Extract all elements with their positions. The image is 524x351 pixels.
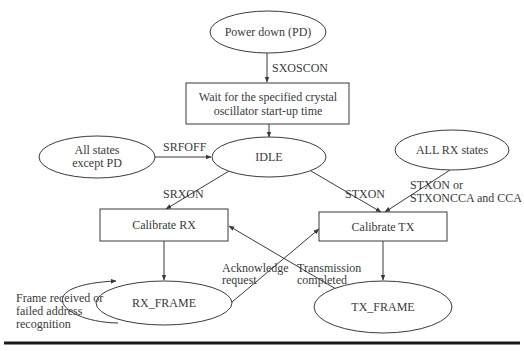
node-label-wait-line1: Wait for the specified crystal [199,90,338,104]
edge-label-txc-line2: completed [297,273,347,287]
node-label-calibrate-tx: Calibrate TX [352,220,415,234]
node-label-all-rx: ALL RX states [416,143,489,157]
edge-label-srfoff: SRFOFF [163,140,207,154]
node-label-rx-frame: RX_FRAME [132,296,196,310]
edge-stxon-cca: STXON or STXONCCA and CCA [385,170,522,212]
node-label-calibrate-rx: Calibrate RX [132,218,196,232]
edge-srxon: SRXON [163,171,229,209]
node-label-all-states-line1: All states [75,143,120,157]
node-label-power-down: Power down (PD) [225,25,312,39]
edge-label-sxoscon: SXOSCON [272,61,328,75]
edge-label-loop-line1: Frame received or [16,291,103,305]
node-all-states-except-pd: All states except PD [39,136,155,178]
edge-stxon: STXON [311,171,385,212]
node-label-all-states-line2: except PD [72,156,122,170]
edge-sxoscon: SXOSCON [267,53,328,82]
edge-label-stxon-cca-line1: STXON or [410,178,463,192]
edge-label-srxon: SRXON [163,187,204,201]
node-label-tx-frame: TX_FRAME [351,300,414,314]
node-power-down: Power down (PD) [210,11,326,53]
node-calibrate-rx: Calibrate RX [100,209,228,241]
node-tx-frame: TX_FRAME [314,281,452,333]
node-rx-frame: RX_FRAME [96,281,232,325]
edge-label-stxon: STXON [345,187,385,201]
node-label-wait-line2: oscillator start-up time [214,104,323,118]
edge-label-stxon-cca-line2: STXONCCA and CCA [410,191,522,205]
node-label-idle: IDLE [255,150,282,164]
edge-rx-self-loop: Frame received or failed address recogni… [16,281,118,331]
edge-label-loop-line3: recognition [16,317,71,331]
node-all-rx-states: ALL RX states [395,130,509,170]
edge-srfoff: SRFOFF [155,140,211,157]
edge-label-ack-line2: request [222,273,257,287]
node-calibrate-tx: Calibrate TX [319,212,447,241]
state-diagram: SXOSCON SRFOFF SRXON STXON STXON or STXO… [0,0,524,351]
node-idle: IDLE [212,137,326,177]
node-wait-oscillator: Wait for the specified crystal oscillato… [186,83,349,124]
edge-label-loop-line2: failed address [16,304,83,318]
